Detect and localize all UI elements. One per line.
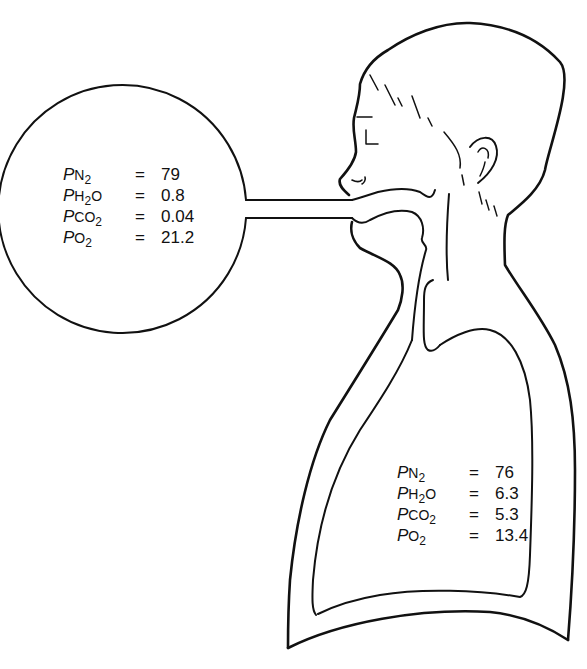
pressure-value: 0.04 <box>161 206 194 227</box>
partial-pressure-prefix: P <box>397 484 408 503</box>
ear <box>470 138 497 183</box>
gas-name: N <box>74 167 84 183</box>
equals-sign: = <box>135 206 161 227</box>
partial-pressure-prefix: P <box>397 463 408 482</box>
airway-trachea-right <box>424 280 440 351</box>
atm-row-h2o: PH2O = 0.8 <box>63 185 194 206</box>
connecting-tube <box>246 200 352 218</box>
gas-name: H <box>408 486 418 502</box>
alv-row-n2: PN2 = 76 <box>397 462 528 483</box>
equals-sign: = <box>469 483 495 504</box>
head-outline <box>340 23 575 640</box>
gas-name: O <box>408 528 419 544</box>
pressure-value: 5.3 <box>495 504 519 525</box>
thorax-left-outline <box>288 222 403 648</box>
equals-sign: = <box>469 504 495 525</box>
partial-pressure-prefix: P <box>63 186 74 205</box>
pressure-value: 0.8 <box>161 185 185 206</box>
equals-sign: = <box>135 164 161 185</box>
mouth-upper <box>352 189 435 200</box>
gas-subscript: 2 <box>419 534 426 548</box>
gas-name: H <box>74 188 84 204</box>
pressure-value: 13.4 <box>495 525 528 546</box>
equals-sign: = <box>135 227 161 248</box>
partial-pressure-prefix: P <box>397 526 408 545</box>
gas-subscript: 2 <box>85 236 92 250</box>
alveolar-partial-pressures: PN2 = 76 PH2O = 6.3 PCO2 = 5.3 PO2 = 13.… <box>397 462 528 546</box>
equals-sign: = <box>469 525 495 546</box>
gas-name: CO <box>74 209 95 225</box>
gas-symbol: PH2O <box>397 483 469 505</box>
gas-symbol: PN2 <box>63 164 135 186</box>
respiration-diagram <box>0 0 587 669</box>
gas-tail: O <box>91 188 102 204</box>
gas-name: O <box>74 230 85 246</box>
partial-pressure-prefix: P <box>63 165 74 184</box>
throat-line <box>446 194 449 280</box>
atm-row-n2: PN2 = 79 <box>63 164 194 185</box>
nose-detail <box>352 177 365 184</box>
gas-name: CO <box>408 507 429 523</box>
gas-symbol: PCO2 <box>397 504 469 526</box>
face-details <box>357 75 464 185</box>
partial-pressure-prefix: P <box>63 228 74 247</box>
thorax-base <box>288 611 568 648</box>
equals-sign: = <box>469 462 495 483</box>
alv-row-co2: PCO2 = 5.3 <box>397 504 528 525</box>
equals-sign: = <box>135 185 161 206</box>
partial-pressure-prefix: P <box>63 207 74 226</box>
gas-symbol: PN2 <box>397 462 469 484</box>
neck-hair-marks <box>479 192 497 216</box>
pressure-value: 76 <box>495 462 514 483</box>
alv-row-h2o: PH2O = 6.3 <box>397 483 528 504</box>
gas-symbol: PH2O <box>63 185 135 207</box>
pressure-value: 79 <box>161 164 180 185</box>
mouth-lower <box>352 211 426 340</box>
pressure-value: 21.2 <box>161 227 194 248</box>
gas-symbol: PCO2 <box>63 206 135 228</box>
atm-row-co2: PCO2 = 0.04 <box>63 206 194 227</box>
atmosphere-partial-pressures: PN2 = 79 PH2O = 0.8 PCO2 = 0.04 PO2 = 21… <box>63 164 194 248</box>
gas-tail: O <box>425 486 436 502</box>
gas-symbol: PO2 <box>397 525 469 547</box>
gas-symbol: PO2 <box>63 227 135 249</box>
atm-row-o2: PO2 = 21.2 <box>63 227 194 248</box>
gas-name: N <box>408 465 418 481</box>
partial-pressure-prefix: P <box>397 505 408 524</box>
ear-inner <box>478 148 488 176</box>
pressure-value: 6.3 <box>495 483 519 504</box>
alv-row-o2: PO2 = 13.4 <box>397 525 528 546</box>
